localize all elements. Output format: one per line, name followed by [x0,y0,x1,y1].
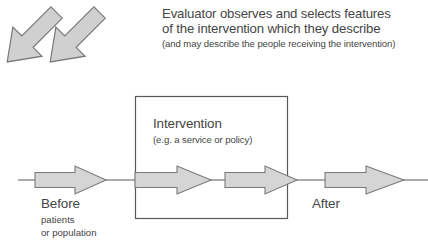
flow-arrow-before [35,166,106,194]
before-sublabel-1: patients [41,214,75,225]
caption-line-3: (and may describe the people receiving t… [162,38,395,49]
flow-arrow-intervention-1 [135,166,211,194]
flow-arrow-intervention-2 [225,166,297,194]
intervention-label: Intervention [153,116,222,132]
caption-line-1: Evaluator observes and selects features [162,6,391,22]
flow-arrow-after [325,166,404,194]
before-label: Before [41,196,80,212]
caption-line-2: of the intervention which they describe [162,21,380,37]
before-sublabel-2: or population [41,227,96,238]
intervention-sublabel: (e.g. a service or policy) [153,134,252,145]
after-label: After [312,196,340,212]
intervention-box [136,97,288,219]
diagram-canvas: Evaluator observes and selects features … [0,0,428,245]
